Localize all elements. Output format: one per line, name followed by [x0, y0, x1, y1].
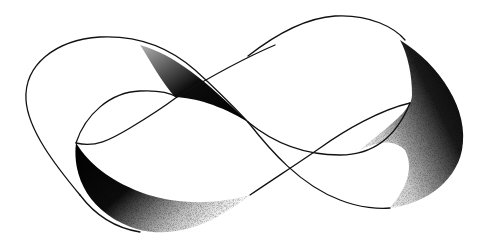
left-inner-lower-edge	[76, 97, 177, 145]
middle-crossing-b	[248, 122, 390, 208]
diagonal-lower	[250, 103, 410, 195]
left-inner-edge	[76, 91, 177, 143]
left-outer-edge	[26, 37, 248, 195]
mobius-strip-illustration	[0, 0, 484, 243]
right-outer-edge	[248, 16, 405, 56]
ribbon-outlines	[26, 16, 410, 232]
upper-middle-shaded-wedge	[140, 45, 248, 122]
left-shaded-band	[75, 143, 250, 232]
right-shaded-surface	[360, 40, 463, 208]
